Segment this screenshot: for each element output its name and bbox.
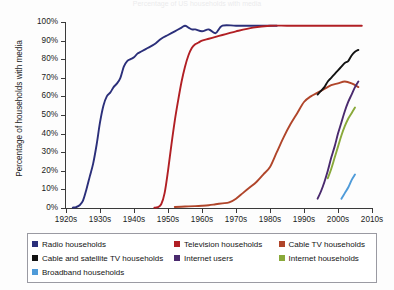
series-lines (66, 22, 372, 208)
legend-swatch-icon (279, 241, 285, 247)
legend-item[interactable]: Cable TV households (279, 237, 372, 251)
plot-canvas: 0%10%20%30%40%50%60%70%80%90%100% 1920s1… (66, 22, 372, 208)
y-tick-label: 60% (18, 92, 58, 100)
y-tick-mark (61, 152, 65, 153)
x-tick-mark (270, 209, 271, 213)
legend-label: Internet households (289, 254, 359, 263)
y-tick-mark (61, 189, 65, 190)
x-tick-mark (134, 209, 135, 213)
x-tick-mark (202, 209, 203, 213)
y-tick-label: 100% (18, 18, 58, 26)
legend-item[interactable]: Internet households (279, 251, 372, 265)
chart-page: Percentage of US households with media P… (0, 0, 394, 290)
x-tick-mark (372, 209, 373, 213)
legend-row: Broadband households (32, 265, 372, 279)
y-tick-label: 10% (18, 185, 58, 193)
y-tick-label: 0% (18, 204, 58, 212)
series-line (318, 82, 359, 199)
legend-swatch-icon (32, 269, 38, 275)
legend-row: Radio householdsTelevision householdsCab… (32, 237, 372, 251)
y-tick-label: 80% (18, 55, 58, 63)
legend-item[interactable]: Broadband households (32, 265, 184, 279)
legend-label: Cable TV households (289, 240, 365, 249)
x-tick-mark (66, 209, 67, 213)
y-tick-label: 50% (18, 111, 58, 119)
legend-item[interactable]: Internet users (174, 251, 279, 265)
y-tick-mark (61, 134, 65, 135)
y-tick-mark (61, 96, 65, 97)
x-tick-mark (236, 209, 237, 213)
y-tick-label: 90% (18, 37, 58, 45)
legend-item[interactable]: Television households (174, 237, 279, 251)
y-tick-mark (61, 208, 65, 209)
y-tick-mark (61, 78, 65, 79)
x-tick-mark (168, 209, 169, 213)
legend-swatch-icon (174, 241, 180, 247)
legend-swatch-icon (279, 255, 285, 261)
y-tick-label: 20% (18, 167, 58, 175)
y-tick-mark (61, 115, 65, 116)
y-tick-mark (61, 59, 65, 60)
x-axis-line (65, 208, 373, 209)
legend-label: Broadband households (42, 268, 124, 277)
y-tick-mark (61, 22, 65, 23)
legend-label: Internet users (184, 254, 233, 263)
x-tick-mark (304, 209, 305, 213)
y-tick-mark (61, 41, 65, 42)
x-tick-mark (100, 209, 101, 213)
y-tick-label: 70% (18, 74, 58, 82)
legend-swatch-icon (174, 255, 180, 261)
x-tick-mark (338, 209, 339, 213)
y-tick-mark (61, 171, 65, 172)
legend-label: Cable and satellite TV households (42, 254, 163, 263)
y-tick-label: 40% (18, 130, 58, 138)
chart-title: Percentage of US households with media (0, 0, 394, 8)
series-line (175, 82, 359, 208)
series-line (341, 175, 355, 199)
series-line (318, 50, 359, 95)
legend-item[interactable]: Cable and satellite TV households (32, 251, 174, 265)
x-tick-label: 2010s (350, 215, 394, 224)
y-tick-label: 30% (18, 148, 58, 156)
chart-legend: Radio householdsTelevision householdsCab… (27, 233, 377, 283)
legend-label: Radio households (42, 240, 106, 249)
legend-label: Television households (184, 240, 262, 249)
chart-plot-area: Percentage of households with media 0%10… (0, 8, 394, 226)
legend-row: Cable and satellite TV householdsInterne… (32, 251, 372, 265)
legend-swatch-icon (32, 241, 38, 247)
series-line (328, 108, 355, 179)
legend-swatch-icon (32, 255, 38, 261)
legend-item[interactable]: Radio households (32, 237, 174, 251)
